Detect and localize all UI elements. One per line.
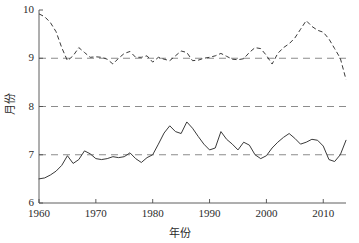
axes: [39, 10, 346, 203]
x-tick-label-2000: 2000: [246, 207, 286, 219]
chart-figure: 678910 196019701980199020002010 月份 年份: [0, 0, 359, 243]
series-line-1: [39, 122, 346, 179]
y-tick-label-7: 7: [8, 148, 34, 160]
y-tick-label-9: 9: [8, 51, 34, 63]
x-axis-title: 年份: [0, 224, 359, 240]
x-tick-label-2010: 2010: [303, 207, 343, 219]
gridlines: [39, 58, 346, 155]
y-tick-label-10: 10: [8, 3, 34, 15]
series-line-0: [39, 14, 346, 80]
x-tick-label-1960: 1960: [19, 207, 59, 219]
x-tick-label-1970: 1970: [76, 207, 116, 219]
x-tick-label-1990: 1990: [190, 207, 230, 219]
y-axis-title: 月份: [1, 82, 17, 126]
data-series: [39, 14, 346, 179]
x-tick-label-1980: 1980: [133, 207, 173, 219]
